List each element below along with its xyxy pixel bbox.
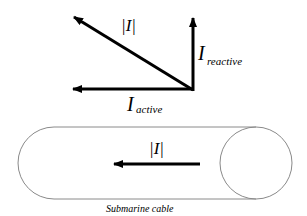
cable-current-label: |I| (149, 140, 164, 157)
active-label-main: I (127, 94, 134, 114)
magnitude-label: |I| (121, 17, 136, 34)
active-label-sub: active (136, 104, 162, 115)
reactive-label-main: I (198, 43, 205, 63)
cable-caption: Submarine cable (106, 204, 174, 214)
cable-end-circle (220, 127, 292, 199)
submarine-cable (18, 127, 292, 199)
reactive-label-sub: reactive (207, 56, 242, 67)
